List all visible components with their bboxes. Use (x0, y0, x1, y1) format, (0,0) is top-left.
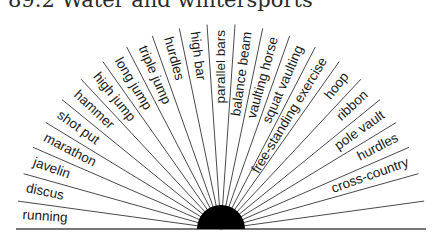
divider-ray (221, 100, 380, 229)
sector-label: hoop (321, 69, 352, 102)
sector-label: parallel bars (213, 30, 228, 104)
hub-semicircle (197, 205, 245, 229)
divider-ray (46, 123, 221, 230)
sector-label: hurdles (161, 35, 187, 82)
sector-label: high bar (187, 31, 209, 82)
sports-fan-diagram: runningdiscusjavelinmarathonshot puthamm… (0, 0, 435, 240)
divider-ray (221, 201, 424, 229)
sector-label: cross-country (329, 154, 411, 195)
sector-label: running (22, 207, 68, 225)
divider-ray (221, 147, 409, 229)
divider-ray (221, 174, 418, 229)
